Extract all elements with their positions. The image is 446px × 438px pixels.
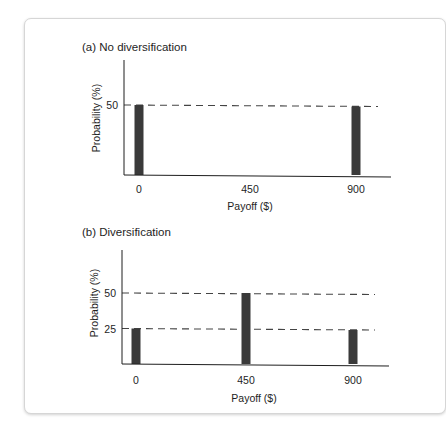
panel-a-x-tick-450: 450 xyxy=(241,183,259,195)
panel-a-x-tick-900: 900 xyxy=(347,183,365,195)
panel-b-bar-900 xyxy=(349,330,358,364)
panel-b-y-axis-label: Probability (%) xyxy=(88,269,100,337)
panel-b-bar-450 xyxy=(242,293,251,364)
panel-a-x-axis xyxy=(124,175,391,177)
panel-b-x-tick-0: 0 xyxy=(133,374,139,386)
panel-a-x-axis-label: Payoff ($) xyxy=(227,200,272,212)
panel-b-x-axis xyxy=(122,364,389,366)
panel-b-bar-0 xyxy=(132,329,141,365)
panel-b-x-tick-900: 900 xyxy=(344,374,362,386)
panel-a-no-diversification: (a) No diversification Probability (%) P… xyxy=(82,41,391,212)
panel-a-x-tick-0: 0 xyxy=(136,183,142,195)
panel-b-diversification: (b) Diversification Probability (%) Payo… xyxy=(82,226,389,404)
panel-a-y-tick-50: 50 xyxy=(106,99,118,111)
panel-b-y-tick-50: 50 xyxy=(104,287,116,299)
panel-a-bar-0 xyxy=(135,105,144,175)
panel-b-y-tick-25: 25 xyxy=(104,323,116,335)
panel-b-x-axis-label: Payoff ($) xyxy=(231,392,276,404)
panel-b-x-tick-450: 450 xyxy=(237,374,255,386)
panel-a-y-axis-label: Probability (%) xyxy=(90,84,102,152)
panel-a-title: (a) No diversification xyxy=(82,41,187,53)
panel-a-reference-line-50 xyxy=(124,105,378,107)
panel-a-bar-900 xyxy=(352,107,361,176)
panel-b-title: (b) Diversification xyxy=(82,226,171,238)
